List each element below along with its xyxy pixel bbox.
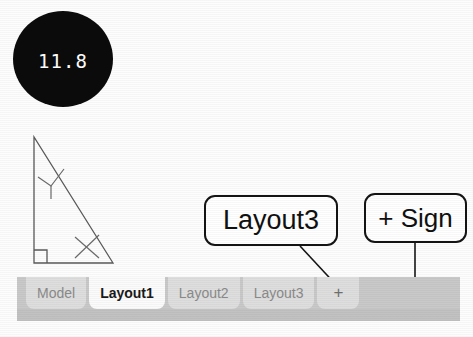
tab-layout3-label: Layout3	[254, 285, 304, 301]
tab-layout1[interactable]: Layout1	[89, 277, 165, 309]
tab-layout3[interactable]: Layout3	[243, 277, 315, 309]
tab-add[interactable]: +	[317, 277, 359, 309]
value-badge-text: 11.8	[38, 52, 88, 71]
tab-model[interactable]: Model	[26, 277, 86, 309]
callout-plus-sign: + Sign	[364, 193, 467, 243]
tab-layout1-label: Layout1	[100, 285, 154, 301]
tab-layout2-label: Layout2	[179, 285, 229, 301]
right-triangle-diagram	[20, 125, 130, 275]
right-angle-square-icon	[34, 250, 47, 263]
layout-tab-bar: Model Layout1 Layout2 Layout3 +	[17, 277, 460, 321]
triangle-outline	[34, 137, 113, 263]
callout-layout3-label: Layout3	[223, 205, 319, 236]
triangle-svg	[20, 125, 130, 275]
value-badge: 11.8	[13, 11, 113, 107]
callout-layout3: Layout3	[204, 195, 338, 246]
tab-model-label: Model	[37, 285, 75, 301]
tab-bar-base	[17, 309, 460, 321]
screenshot-root: 11.8 Layout3 + Sign Model	[0, 0, 473, 337]
layout-tab-bar-tabs: Model Layout1 Layout2 Layout3 +	[17, 277, 460, 309]
plus-icon: +	[333, 283, 343, 303]
tab-layout2[interactable]: Layout2	[168, 277, 240, 309]
callout-plus-sign-label: + Sign	[378, 203, 452, 234]
